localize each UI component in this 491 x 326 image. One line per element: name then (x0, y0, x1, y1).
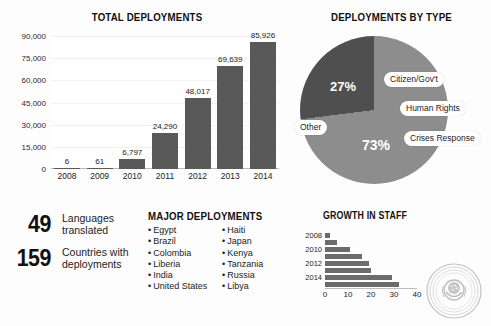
growth-chart-y-tick: 2012 (305, 259, 322, 268)
bar-chart-column: 85,926 (248, 36, 278, 169)
major-deployment-item: •Colombia (148, 248, 222, 259)
bullet-icon: • (148, 270, 151, 280)
growth-chart-bars: 2008201020122014 (325, 232, 417, 288)
bar-chart-y-axis: 015,00030,00045,00060,00075,00090,000 (8, 36, 49, 169)
growth-chart-bar (325, 261, 369, 266)
growth-chart-x-axis: 010203040 (325, 290, 417, 302)
key-stat-row: 159Countries withdeployments (10, 246, 145, 270)
major-deployment-item: •Liberia (148, 259, 222, 270)
key-stat-label: Languagestranslated (62, 212, 114, 236)
growth-chart-axis-line (325, 288, 417, 289)
growth-chart-row (325, 239, 417, 246)
bar-chart-x-tick: 2011 (150, 171, 180, 181)
major-deployments-title: MAJOR DEPLOYMENTS (148, 210, 278, 222)
bar-chart-value-label: 85,926 (251, 31, 275, 40)
bar-chart-y-tick: 60,000 (22, 76, 46, 85)
growth-chart-row (325, 253, 417, 260)
major-deployment-item: •Libya (222, 281, 296, 292)
bar-chart-bar (217, 66, 243, 169)
growth-chart-row: 2014 (325, 274, 417, 281)
major-deployment-item: •Haiti (222, 225, 296, 236)
pie-callout-human-rights: Human Rights (400, 101, 466, 116)
bar-chart-column: 24,290 (150, 36, 180, 169)
bar-chart-column: 61 (85, 36, 115, 169)
major-deployment-item: •Tanzania (222, 259, 296, 270)
bar-chart-column: 6 (52, 36, 82, 169)
growth-chart-row: 2010 (325, 246, 417, 253)
bullet-icon: • (148, 259, 151, 269)
bar-chart-bar (152, 133, 178, 169)
bar-chart-column: 48,017 (183, 36, 213, 169)
growth-chart-bar (325, 254, 362, 259)
growth-chart-x-tick: 20 (367, 290, 376, 299)
growth-chart-row (325, 281, 417, 288)
bar-chart-column: 6,797 (117, 36, 147, 169)
bar-chart-value-label: 48,017 (185, 87, 209, 96)
bar-chart-bar (185, 98, 211, 169)
bar-chart-plot-area: 6616,79724,29048,01769,63985,926 (51, 36, 279, 169)
major-deployments-column-right: •Haiti•Japan•Kenya•Tanzania•Russia•Libya (222, 225, 296, 293)
growth-chart-x-tick: 30 (390, 290, 399, 299)
bullet-icon: • (222, 259, 225, 269)
total-deployments-title: TOTAL DEPLOYMENTS (23, 11, 271, 23)
bar-chart-x-tick: 2014 (248, 171, 278, 181)
bar-chart-value-label: 69,639 (218, 55, 242, 64)
major-deployment-item: •United States (148, 281, 222, 292)
deployments-by-type-section: DEPLOYMENTS BY TYPE 27% 73% Other Citize… (292, 8, 491, 198)
bar-chart-bar (54, 168, 80, 169)
bullet-icon: • (222, 270, 225, 280)
growth-chart-bar (325, 275, 392, 280)
bullet-icon: • (148, 248, 151, 258)
pie-percent-other: 27% (330, 79, 356, 94)
bullet-icon: • (148, 281, 151, 291)
bar-chart-bar (87, 168, 113, 169)
bar-chart-x-tick: 2012 (183, 171, 213, 181)
bar-chart-bar (119, 159, 145, 169)
growth-chart-x-tick: 0 (323, 290, 327, 299)
growth-chart-bar (325, 233, 330, 238)
major-deployment-item: •Brazil (148, 236, 222, 247)
bar-chart-y-tick: 90,000 (22, 32, 46, 41)
growth-chart-y-tick: 2010 (305, 245, 322, 254)
key-stat-label: Countries withdeployments (62, 246, 129, 270)
growth-chart-x-tick: 10 (344, 290, 353, 299)
growth-chart-row (325, 267, 417, 274)
pie-chart: 27% 73% Other Citizen/Gov't Human Rights… (300, 36, 450, 186)
growth-in-staff-title: GROWTH IN STAFF (308, 210, 422, 221)
pie-callout-crises-response: Crises Response (404, 131, 481, 146)
bar-chart-y-tick: 45,000 (22, 98, 46, 107)
key-stats-section: 49Languagestranslated159Countries withde… (10, 212, 145, 318)
bar-chart-x-tick: 2009 (85, 171, 115, 181)
growth-chart-y-tick: 2008 (305, 231, 322, 240)
deployments-by-type-title: DEPLOYMENTS BY TYPE (304, 11, 479, 23)
bar-chart-x-tick: 2008 (52, 171, 82, 181)
major-deployment-item: •Japan (222, 236, 296, 247)
bar-chart-x-tick: 2010 (117, 171, 147, 181)
pie-callout-citizen-govt: Citizen/Gov't (384, 72, 444, 87)
bullet-icon: • (222, 225, 225, 235)
bar-chart-value-label: 61 (95, 157, 104, 166)
bar-chart-column: 69,639 (215, 36, 245, 169)
growth-chart-bar (325, 240, 337, 245)
growth-chart-bar (325, 282, 399, 287)
growth-chart-row: 2008 (325, 232, 417, 239)
bar-chart-y-tick: 75,000 (22, 54, 46, 63)
major-deployment-item: •Egypt (148, 225, 222, 236)
major-deployments-section: MAJOR DEPLOYMENTS •Egypt•Brazil•Colombia… (148, 210, 296, 320)
pie-percent-major: 73% (362, 137, 390, 153)
bar-chart-x-axis: 2008200920102011201220132014 (51, 171, 279, 181)
bar-chart-y-tick: 15,000 (22, 142, 46, 151)
growth-chart-y-tick: 2014 (305, 273, 322, 282)
bar-chart-value-label: 6 (65, 157, 69, 166)
bar-chart-x-tick: 2013 (215, 171, 245, 181)
major-deployment-item: •Kenya (222, 248, 296, 259)
organization-seal-logo (425, 262, 483, 320)
pie-callout-other: Other (294, 120, 327, 135)
bar-chart-y-tick: 0 (42, 165, 46, 174)
bullet-icon: • (148, 225, 151, 235)
growth-chart-bar (325, 268, 371, 273)
bullet-icon: • (222, 248, 225, 258)
growth-chart-bar (325, 247, 350, 252)
growth-chart-row: 2012 (325, 260, 417, 267)
growth-in-staff-section: GROWTH IN STAFF 2008201020122014 0102030… (300, 210, 430, 320)
